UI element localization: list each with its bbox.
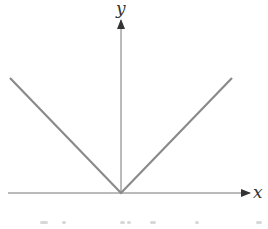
clipped-caption xyxy=(0,221,268,229)
y-axis-label: y xyxy=(116,0,126,17)
graph-figure xyxy=(0,0,268,229)
x-axis-label: x xyxy=(253,184,263,201)
